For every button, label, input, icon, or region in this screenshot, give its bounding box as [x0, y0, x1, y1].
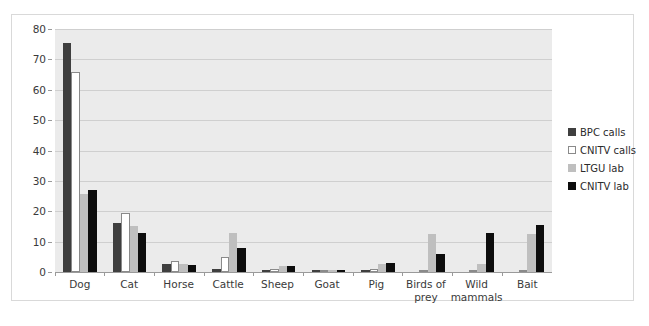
legend-item[interactable]: CNITV calls [568, 141, 644, 159]
light-gray-swatch [568, 164, 576, 172]
chart-legend: BPC callsCNITV callsLTGU labCNITV lab [568, 123, 644, 195]
y-tick-label-10: 10 [33, 236, 46, 247]
bar[interactable] [188, 265, 196, 272]
legend-item-label: LTGU lab [580, 163, 624, 174]
bar[interactable] [477, 264, 485, 272]
bar[interactable] [179, 264, 187, 272]
bar[interactable] [328, 270, 336, 272]
bar[interactable] [320, 270, 328, 272]
bar[interactable] [386, 263, 394, 272]
legend-item[interactable]: LTGU lab [568, 159, 644, 177]
bar[interactable] [113, 223, 121, 272]
legend-item[interactable]: CNITV lab [568, 177, 644, 195]
bar-group [154, 29, 204, 272]
bar[interactable] [419, 270, 427, 272]
y-tick-label-30: 30 [33, 176, 46, 187]
bar[interactable] [361, 270, 369, 272]
y-tick-mark-0 [48, 272, 52, 273]
bar[interactable] [270, 269, 278, 272]
bar[interactable] [312, 270, 320, 272]
x-axis-label: Dog [55, 274, 104, 308]
bar-group [304, 29, 354, 272]
bar[interactable] [262, 270, 270, 272]
bar[interactable] [121, 213, 129, 272]
y-tick-label-40: 40 [33, 145, 46, 156]
bar-group [453, 29, 503, 272]
bar-group [105, 29, 155, 272]
y-tick-label-60: 60 [33, 85, 46, 96]
y-tick-label-20: 20 [33, 206, 46, 217]
bar[interactable] [71, 72, 79, 272]
x-axis-label: Bait [503, 274, 552, 308]
bar[interactable] [229, 233, 237, 272]
dark-gray-swatch [568, 128, 576, 136]
bar-groups [55, 29, 552, 272]
y-tick-mark-50 [48, 120, 52, 121]
bar[interactable] [337, 270, 345, 272]
bar-group [403, 29, 453, 272]
bar[interactable] [436, 254, 444, 272]
bar-group [353, 29, 403, 272]
y-tick-mark-20 [48, 211, 52, 212]
y-axis: 01020304050607080 [12, 29, 52, 272]
bar[interactable] [378, 264, 386, 272]
x-axis-label: Sheep [253, 274, 302, 308]
legend-item-label: BPC calls [580, 127, 625, 138]
y-tick-label-70: 70 [33, 54, 46, 65]
y-tick-mark-70 [48, 59, 52, 60]
bar-group [55, 29, 105, 272]
bar[interactable] [279, 266, 287, 272]
plot-area [55, 29, 552, 272]
bar[interactable] [162, 264, 170, 272]
bar-group [254, 29, 304, 272]
bar[interactable] [88, 190, 96, 272]
bar-group [502, 29, 552, 272]
y-tick-mark-80 [48, 29, 52, 30]
y-tick-label-50: 50 [33, 115, 46, 126]
bar[interactable] [171, 261, 179, 272]
bar[interactable] [486, 233, 494, 272]
bar[interactable] [287, 266, 295, 272]
x-axis-labels: DogCatHorseCattleSheepGoatPigBirds of pr… [55, 274, 552, 308]
y-tick-label-0: 0 [39, 267, 46, 278]
bar[interactable] [527, 234, 535, 272]
bar[interactable] [63, 43, 71, 272]
y-tick-mark-30 [48, 181, 52, 182]
bar[interactable] [519, 270, 527, 272]
bar[interactable] [428, 234, 436, 272]
bar[interactable] [370, 269, 378, 272]
bar[interactable] [536, 225, 544, 272]
white-swatch [568, 146, 576, 154]
x-axis-label: Horse [154, 274, 203, 308]
bar[interactable] [469, 270, 477, 272]
x-axis-label: Cat [104, 274, 153, 308]
legend-item-label: CNITV lab [580, 181, 629, 192]
y-tick-mark-40 [48, 151, 52, 152]
bar[interactable] [130, 226, 138, 272]
bar[interactable] [221, 257, 229, 272]
x-axis-label: Pig [352, 274, 401, 308]
legend-item[interactable]: BPC calls [568, 123, 644, 141]
bar-group [204, 29, 254, 272]
y-tick-mark-60 [48, 90, 52, 91]
x-axis-label: Goat [302, 274, 351, 308]
chart-frame: 01020304050607080 DogCatHorseCattleSheep… [11, 14, 634, 301]
bar[interactable] [212, 269, 220, 272]
bar[interactable] [237, 248, 245, 272]
y-tick-label-80: 80 [33, 24, 46, 35]
x-axis-label: Cattle [203, 274, 252, 308]
black-swatch [568, 182, 576, 190]
x-axis-label: Wild mammals [451, 274, 503, 308]
y-tick-mark-10 [48, 242, 52, 243]
legend-item-label: CNITV calls [580, 145, 636, 156]
bar[interactable] [138, 233, 146, 272]
x-axis-label: Birds of prey [401, 274, 450, 308]
bar[interactable] [80, 194, 88, 272]
